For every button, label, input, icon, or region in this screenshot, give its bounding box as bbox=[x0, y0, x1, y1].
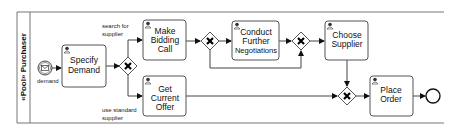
svg-text:supplier: supplier bbox=[102, 115, 123, 121]
pool-label: «Pool» Purchaser bbox=[19, 33, 28, 101]
svg-text:Specify: Specify bbox=[70, 55, 99, 65]
flow-label-standard: use standard supplier bbox=[102, 107, 137, 121]
svg-text:supplier: supplier bbox=[102, 31, 123, 37]
task-place-order[interactable]: Place Order bbox=[370, 76, 413, 116]
svg-text:Call: Call bbox=[158, 44, 173, 54]
end-event[interactable] bbox=[426, 89, 440, 103]
svg-text:Order: Order bbox=[380, 94, 402, 104]
svg-text:use standard: use standard bbox=[102, 107, 137, 113]
task-choose-supplier[interactable]: Choose Supplier bbox=[325, 21, 368, 60]
gateway-1[interactable] bbox=[119, 57, 137, 75]
bpmn-diagram: «Pool» Purchaser demand search for suppl… bbox=[0, 0, 461, 129]
svg-text:Negotiations: Negotiations bbox=[235, 46, 277, 55]
start-event-demand[interactable]: demand bbox=[37, 61, 59, 84]
gateway-4[interactable] bbox=[338, 87, 356, 105]
svg-text:search for: search for bbox=[102, 23, 129, 29]
task-conduct-negotiations[interactable]: Conduct Further Negotiations bbox=[232, 21, 279, 60]
svg-text:Offer: Offer bbox=[156, 102, 175, 112]
gateway-2[interactable] bbox=[201, 32, 219, 50]
svg-text:Demand: Demand bbox=[68, 65, 100, 75]
gateway-3[interactable] bbox=[292, 32, 310, 50]
task-get-current-offer[interactable]: Get Current Offer bbox=[143, 76, 186, 116]
task-specify-demand[interactable]: Specify Demand bbox=[62, 45, 106, 87]
flow-label-search: search for supplier bbox=[102, 23, 129, 37]
svg-text:Supplier: Supplier bbox=[331, 39, 362, 49]
envelope-icon bbox=[42, 66, 49, 71]
svg-text:Further: Further bbox=[242, 36, 270, 46]
start-event-label: demand bbox=[37, 78, 59, 84]
task-make-bidding-call[interactable]: Make Bidding Call bbox=[143, 20, 186, 60]
